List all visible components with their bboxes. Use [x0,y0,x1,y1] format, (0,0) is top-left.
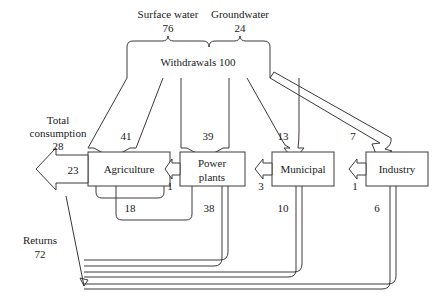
label-total-consumption-line2: consumption [30,127,87,139]
value-return-power-plants: 38 [204,202,216,214]
flow-arrow-industry-consumption [349,159,366,179]
label-groundwater: Groundwater [211,8,269,20]
value-withdrawal-power-plants: 39 [203,130,215,142]
node-label-power-plants-line2: plants [199,171,225,183]
value-returns: 72 [35,248,46,260]
value-groundwater: 24 [235,22,247,34]
value-withdrawal-industry: 7 [350,130,356,142]
flow-arrow-withdrawals-to-power-plants [181,78,229,158]
return-path-municipal [84,186,302,277]
label-returns: Returns [23,234,57,246]
value-return-municipal: 10 [278,202,290,214]
label-withdrawals: Withdrawals 100 [160,56,236,68]
value-total-consumption: 28 [53,140,65,152]
surface-water-brace [127,36,209,47]
node-label-municipal: Municipal [280,163,325,175]
node-label-industry: Industry [379,163,416,175]
label-total-consumption-line1: Total [47,114,69,126]
value-consumption-power-plants: 1 [167,180,173,192]
label-surface-water: Surface water [138,8,199,20]
value-withdrawal-municipal: 13 [278,130,290,142]
flow-arrow-withdrawals-to-agriculture [88,78,163,158]
diagram-canvas: Surface water 76 Groundwater 24 Withdraw… [0,0,443,298]
flow-arrow-agriculture-consumption [36,148,88,190]
flow-arrow-withdrawals-to-municipal [247,78,304,160]
value-return-agriculture: 18 [125,202,137,214]
flow-arrow-withdrawals-to-industry [270,72,392,159]
flow-arrow-municipal-consumption [255,159,272,179]
value-return-industry: 6 [374,202,380,214]
value-consumption-industry: 1 [352,180,358,192]
value-consumption-municipal: 3 [258,180,264,192]
node-label-agriculture: Agriculture [104,163,155,175]
value-consumption-agriculture: 23 [68,164,80,176]
water-flow-diagram: Surface water 76 Groundwater 24 Withdraw… [0,0,443,298]
value-withdrawal-agriculture: 41 [121,130,132,142]
node-label-power-plants-line1: Power [198,157,226,169]
return-path-agriculture [96,186,192,220]
value-surface-water: 76 [163,22,175,34]
groundwater-brace [209,36,270,47]
